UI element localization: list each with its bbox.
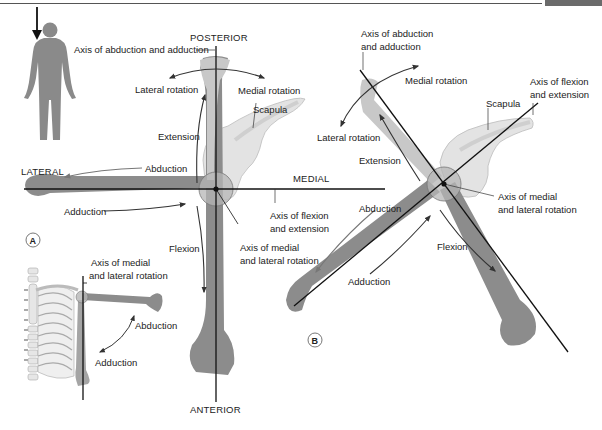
label-axis-flexion-extension-a-2: and extension (270, 223, 329, 234)
direction-lateral: LATERAL (21, 166, 64, 177)
label-axis-abduction-adduction-b-2: and adduction (361, 41, 421, 52)
label-adduction-a: Adduction (64, 206, 106, 217)
inset-label-axis-2: and lateral rotation (89, 270, 168, 281)
svg-text:B: B (312, 336, 319, 346)
panel-a: POSTERIOR ANTERIOR LATERAL MEDIAL Axis o… (21, 32, 385, 415)
label-extension-a: Extension (158, 131, 200, 142)
label-scapula-a: Scapula (253, 104, 288, 115)
svg-text:A: A (30, 236, 37, 246)
label-axis-medial-lateral-b-2: and lateral rotation (498, 204, 577, 215)
label-axis-medial-lateral-b-1: Axis of medial (498, 191, 557, 202)
panel-b-badge: B (308, 333, 322, 347)
label-flexion-a: Flexion (169, 243, 200, 254)
inset-label-abduction: Abduction (135, 320, 177, 331)
humerus-b-left (286, 180, 440, 312)
label-axis-flexion-extension-b-2: and extension (530, 89, 589, 100)
inset-label-adduction: Adduction (95, 357, 137, 368)
label-lateral-rotation-b: Lateral rotation (317, 132, 380, 143)
direction-anterior: ANTERIOR (190, 404, 241, 415)
label-abduction-a: Abduction (145, 163, 187, 174)
inset-label-axis-1: Axis of medial (91, 257, 150, 268)
panel-a-inset: Axis of medial and lateral rotation Abdu… (24, 257, 177, 400)
panel-b: Axis of abduction and adduction Medial r… (286, 28, 589, 352)
direction-posterior: POSTERIOR (190, 32, 248, 43)
label-scapula-b: Scapula (486, 98, 521, 109)
humerus-horizontal (25, 174, 206, 196)
label-axis-abduction-adduction-b-1: Axis of abduction (361, 28, 433, 39)
label-medial-rotation-a: Medial rotation (238, 85, 300, 96)
label-axis-abduction-adduction-a: Axis of abduction and adduction (74, 44, 209, 55)
label-medial-rotation-b: Medial rotation (405, 75, 467, 86)
direction-medial: MEDIAL (293, 173, 330, 184)
shoulder-movements-diagram: POSTERIOR ANTERIOR LATERAL MEDIAL Axis o… (0, 0, 602, 430)
label-axis-medial-lateral-a-1: Axis of medial (240, 242, 299, 253)
label-axis-flexion-extension-a-1: Axis of flexion (270, 210, 329, 221)
label-extension-b: Extension (359, 155, 401, 166)
label-axis-medial-lateral-a-2: and lateral rotation (240, 255, 319, 266)
label-lateral-rotation-a: Lateral rotation (135, 84, 198, 95)
panel-a-badge: A (26, 233, 40, 247)
body-silhouette-icon (24, 23, 76, 141)
down-arrow-icon (32, 7, 42, 40)
label-flexion-b: Flexion (437, 241, 468, 252)
label-abduction-b: Abduction (359, 203, 401, 214)
label-adduction-b: Adduction (348, 276, 390, 287)
label-axis-flexion-extension-b-1: Axis of flexion (530, 76, 589, 87)
